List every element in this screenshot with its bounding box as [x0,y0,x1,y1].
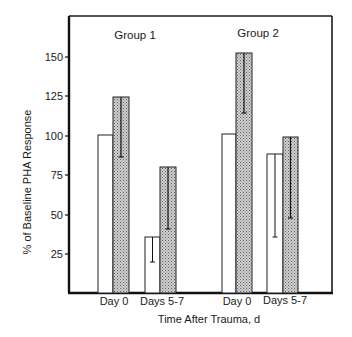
chart-canvas: 150 125 100 75 50 25 % of Baseline PHA R… [0,0,352,337]
y-axis-title: % of Baseline PHA Response [21,110,33,255]
x-tick-label: Day 0 [100,295,129,307]
group-1-label: Group 1 [114,29,156,41]
bar-group1-days5-7 [145,167,176,293]
bar-group2-days5-7 [267,137,298,293]
y-tick-label: 75 [51,169,63,181]
y-tick-label: 150 [45,51,63,63]
y-tick-label: 125 [45,90,63,102]
y-tick-label: 25 [51,248,63,260]
y-tick-label: 50 [51,209,63,221]
x-tick-label: Days 5-7 [263,294,307,306]
bar-group2-day0 [222,53,252,293]
y-ticks: 150 125 100 75 50 25 [45,51,69,260]
group-2-label: Group 2 [237,27,279,39]
bar-group1-day0 [98,97,129,293]
x-tick-label: Days 5-7 [140,295,184,307]
x-axis-title: Time After Trauma, d [158,313,260,325]
bar-open [222,134,236,293]
bar-open [98,135,113,293]
x-tick-labels: Day 0 Days 5-7 Day 0 Days 5-7 [100,294,307,307]
y-tick-label: 100 [45,130,63,142]
x-tick-label: Day 0 [223,295,252,307]
